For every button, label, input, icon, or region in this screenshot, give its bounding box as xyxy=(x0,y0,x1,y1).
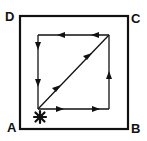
arrow-diagonal-icon xyxy=(52,85,61,92)
inner-path xyxy=(38,35,109,109)
arrow-down-icon xyxy=(35,79,41,87)
corner-label-b: B xyxy=(131,122,140,135)
arrow-down-icon xyxy=(35,42,41,50)
corner-label-c: C xyxy=(131,12,140,25)
corner-label-d: D xyxy=(5,10,14,23)
corner-label-a: A xyxy=(7,121,16,134)
arrow-left-icon xyxy=(91,32,99,38)
arrow-left-icon xyxy=(57,32,65,38)
path-diagonal xyxy=(38,35,109,109)
arrow-up-icon xyxy=(106,71,112,79)
arrow-right-icon xyxy=(56,106,64,112)
star-burst-icon xyxy=(34,111,46,123)
arrow-right-icon xyxy=(92,106,100,112)
square-path-diagram xyxy=(0,0,147,141)
arrow-diagonal-icon xyxy=(83,53,92,60)
